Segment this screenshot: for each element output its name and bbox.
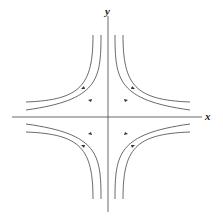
- curve-q4-outer: [123, 132, 190, 199]
- curve-q1-outer: [123, 35, 190, 102]
- arrow-icon: [81, 145, 85, 148]
- y-axis-label: y: [103, 5, 110, 17]
- curve-q3-outer: [26, 132, 93, 199]
- arrow-icon: [124, 99, 128, 102]
- arrow-icon: [131, 145, 135, 148]
- curve-q2-inner: [26, 35, 101, 110]
- arrow-icon: [88, 99, 92, 102]
- curve-q1-inner: [115, 35, 190, 110]
- curve-q2-outer: [26, 35, 93, 102]
- arrow-icon: [88, 132, 92, 135]
- saddle-phase-portrait: y x: [0, 0, 223, 218]
- arrow-icon: [124, 132, 128, 135]
- curve-q3-inner: [26, 124, 101, 199]
- curve-q4-inner: [115, 124, 190, 199]
- arrow-icon: [131, 86, 135, 89]
- diagram-canvas: y x: [0, 0, 223, 218]
- arrow-icon: [81, 86, 85, 89]
- x-axis-label: x: [204, 110, 211, 122]
